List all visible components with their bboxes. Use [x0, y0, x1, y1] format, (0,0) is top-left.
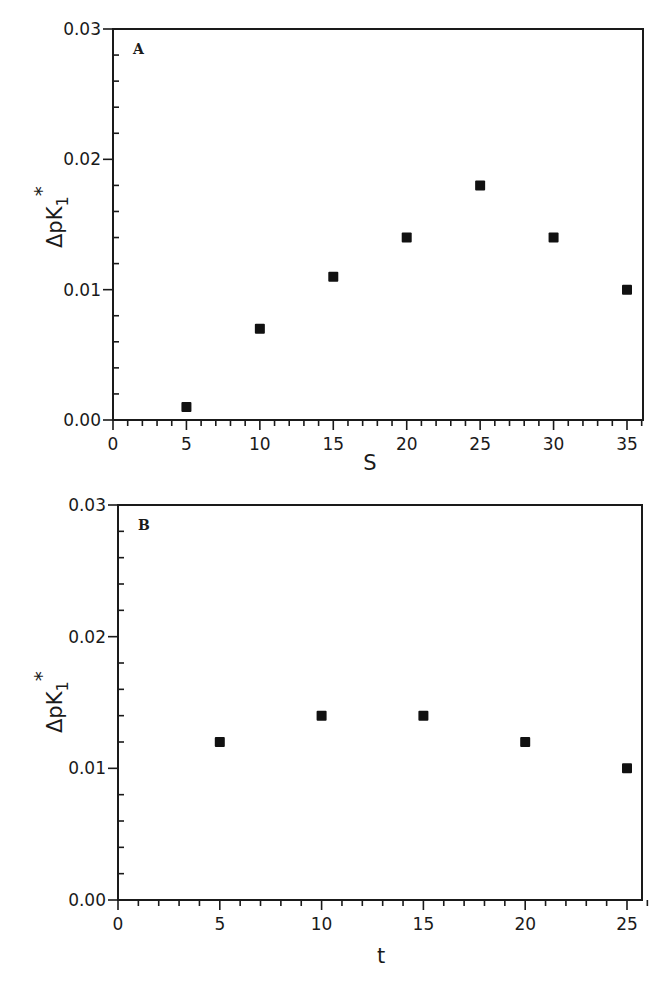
chart-panel-a: 0.000.010.020.0305101520253035SΔpK1*A — [0, 0, 666, 480]
x-tick-label: 15 — [413, 914, 435, 934]
x-axis-label: S — [363, 451, 376, 475]
data-point — [418, 711, 428, 721]
x-tick-label: 25 — [616, 914, 638, 934]
y-tick-label: 0.00 — [68, 890, 106, 910]
x-tick-label: 30 — [543, 434, 565, 454]
data-point — [402, 233, 412, 243]
y-tick-label: 0.01 — [68, 758, 106, 778]
x-axis: 0510152025 — [113, 900, 648, 934]
data-point — [255, 324, 265, 334]
data-point — [520, 737, 530, 747]
y-axis: 0.000.010.020.03 — [68, 495, 124, 910]
y-tick-label: 0.02 — [63, 149, 101, 169]
panel-label: B — [138, 517, 150, 533]
plot-frame — [113, 29, 643, 420]
y-tick-label: 0.01 — [63, 280, 101, 300]
x-tick-label: 15 — [322, 434, 344, 454]
y-axis-label: ΔpK1* — [29, 186, 72, 248]
x-tick-label: 10 — [249, 434, 271, 454]
x-tick-label: 0 — [113, 914, 124, 934]
y-axis: 0.000.010.020.03 — [63, 19, 119, 430]
panel-label: A — [132, 41, 145, 57]
x-tick-label: 20 — [396, 434, 418, 454]
x-tick-label: 10 — [311, 914, 333, 934]
x-tick-label: 5 — [214, 914, 225, 934]
y-axis-label: ΔpK1* — [29, 671, 72, 733]
data-point — [181, 402, 191, 412]
data-point — [622, 763, 632, 773]
data-point — [215, 737, 225, 747]
chart-panel-b: 0.000.010.020.030510152025tΔpK1*B — [0, 480, 666, 984]
y-tick-label: 0.03 — [63, 19, 101, 39]
data-point — [622, 285, 632, 295]
x-axis-label: t — [377, 944, 385, 968]
y-tick-label: 0.03 — [68, 495, 106, 515]
x-tick-label: 35 — [616, 434, 638, 454]
plot-frame — [118, 505, 642, 900]
x-tick-label: 20 — [514, 914, 536, 934]
data-point — [475, 180, 485, 190]
data-series — [181, 180, 632, 412]
scatter-plot-b: 0.000.010.020.030510152025tΔpK1*B — [0, 480, 666, 984]
x-tick-label: 0 — [108, 434, 119, 454]
y-tick-label: 0.00 — [63, 410, 101, 430]
data-point — [317, 711, 327, 721]
x-tick-label: 25 — [469, 434, 491, 454]
scatter-plot-a: 0.000.010.020.0305101520253035SΔpK1*A — [0, 0, 666, 480]
x-tick-label: 5 — [181, 434, 192, 454]
data-point — [549, 233, 559, 243]
y-tick-label: 0.02 — [68, 627, 106, 647]
data-point — [328, 272, 338, 282]
data-series — [215, 711, 632, 774]
x-axis: 05101520253035 — [108, 420, 642, 454]
